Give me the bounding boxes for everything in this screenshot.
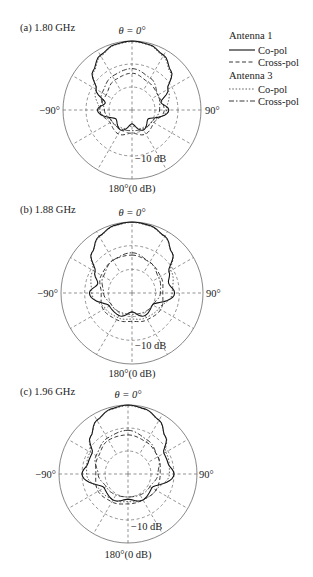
plus-90-label: 90° bbox=[205, 105, 220, 116]
polar-plot-area bbox=[63, 41, 201, 179]
panel-label: (b) 1.88 GHz bbox=[20, 204, 76, 216]
bottom-label: 180°(0 dB) bbox=[104, 549, 152, 561]
panel-label: (c) 1.96 GHz bbox=[20, 386, 75, 398]
radial-grid-line bbox=[94, 496, 116, 534]
polar-plot-a: (a) 1.80 GHz θ = 0° −90° 90° −10 dB 180°… bbox=[20, 22, 220, 195]
polar-plot-area bbox=[59, 405, 197, 543]
polar-plot-c: (c) 1.96 GHz θ = 0° −90° 90° −10 dB 180°… bbox=[20, 386, 214, 561]
bottom-label: 180°(0 dB) bbox=[108, 183, 156, 195]
legend-entry-label: Cross-pol bbox=[258, 57, 299, 68]
radial-grid-line bbox=[71, 306, 110, 329]
radial-grid-line bbox=[144, 132, 166, 170]
polar-plot-area bbox=[61, 222, 203, 364]
radial-grid-line bbox=[97, 315, 120, 354]
minus-90-label: −90° bbox=[37, 288, 58, 299]
ring-label: −10 dB bbox=[131, 521, 162, 532]
radial-grid-line bbox=[145, 232, 168, 271]
ring-label: −10 dB bbox=[135, 153, 166, 164]
series-antenna-3-cross-pol bbox=[101, 69, 160, 131]
radial-grid-line bbox=[68, 486, 106, 508]
panel-label: (a) 1.80 GHz bbox=[20, 22, 75, 34]
radial-grid-line bbox=[68, 440, 106, 462]
radial-grid-line bbox=[154, 76, 192, 98]
radial-grid-line bbox=[72, 122, 110, 144]
theta-zero-label: θ = 0° bbox=[115, 389, 143, 400]
minus-90-label: −90° bbox=[35, 469, 56, 480]
polar-plot-b: (b) 1.88 GHz θ = 0° −90° 90° −10 dB 180°… bbox=[20, 204, 221, 380]
theta-zero-label: θ = 0° bbox=[119, 207, 147, 218]
minus-90-label: −90° bbox=[39, 105, 60, 116]
plus-90-label: 90° bbox=[199, 469, 214, 480]
radiation-pattern-figure: Antenna 1 Co-pol Cross-pol Antenna 3 Co-… bbox=[0, 0, 313, 577]
radial-grid-line bbox=[98, 132, 120, 170]
legend: Antenna 1 Co-pol Cross-pol Antenna 3 Co-… bbox=[229, 30, 299, 107]
radial-grid-line bbox=[150, 486, 188, 508]
radial-grid-line bbox=[154, 306, 193, 329]
legend-entry-label: Co-pol bbox=[258, 45, 287, 56]
legend-group-title: Antenna 1 bbox=[229, 30, 272, 41]
radial-grid-line bbox=[144, 50, 166, 88]
legend-entry-label: Co-pol bbox=[258, 84, 287, 95]
legend-group-title: Antenna 3 bbox=[229, 70, 272, 81]
theta-zero-label: θ = 0° bbox=[119, 25, 147, 36]
ring-label: −10 dB bbox=[135, 340, 166, 351]
plus-90-label: 90° bbox=[206, 288, 221, 299]
bottom-label: 180°(0 dB) bbox=[108, 368, 156, 380]
radial-grid-line bbox=[71, 258, 110, 281]
radial-grid-line bbox=[154, 122, 192, 144]
radial-grid-line bbox=[154, 258, 193, 281]
series-antenna-3-cross-pol bbox=[95, 430, 159, 497]
legend-entry-label: Cross-pol bbox=[258, 96, 299, 107]
